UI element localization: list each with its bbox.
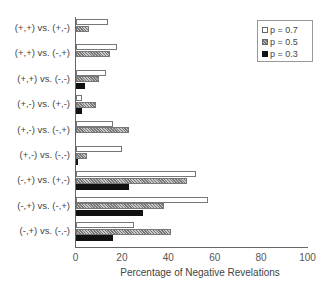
bar [76, 210, 143, 216]
bar [76, 178, 187, 184]
x-tick-label: 100 [299, 252, 316, 263]
category-label: (+,+) vs. (-,-) [0, 73, 70, 84]
bar [76, 108, 83, 114]
category-label: (+,+) vs. (-,+) [0, 47, 70, 58]
bar [76, 197, 208, 203]
legend-item-p05: p = 0.5 [262, 36, 308, 48]
category-label: (+,-) vs. (-,+) [0, 124, 70, 135]
category-label: (-,+) vs. (+,-) [0, 174, 70, 185]
black-swatch-icon [262, 51, 268, 57]
horizontal-bar-chart: (+,+) vs. (+,-)(+,+) vs. (-,+)(+,+) vs. … [0, 0, 330, 290]
bar [76, 229, 171, 235]
x-tick-label: 80 [256, 252, 267, 263]
bar [76, 184, 129, 190]
x-axis-label: Percentage of Negative Revelations [100, 267, 300, 278]
bar [76, 146, 122, 152]
hatched-swatch-icon [262, 39, 268, 45]
bar [76, 83, 85, 89]
bar [76, 171, 197, 177]
bar [76, 235, 113, 241]
legend-item-p03: p = 0.3 [262, 48, 308, 60]
bar [76, 159, 78, 165]
bar [76, 102, 97, 108]
category-label: (+,-) vs. (-,-) [0, 149, 70, 160]
category-label: (-,+) vs. (-,+) [0, 200, 70, 211]
category-label: (+,+) vs. (+,-) [0, 22, 70, 33]
bar [76, 70, 106, 76]
x-tick-label: 40 [163, 252, 174, 263]
category-label: (-,+) vs. (-,-) [0, 225, 70, 236]
legend-item-p07: p = 0.7 [262, 24, 308, 36]
bar [76, 203, 164, 209]
x-tick-label: 60 [209, 252, 220, 263]
bar [76, 76, 99, 82]
category-label: (+,-) vs. (+,-) [0, 98, 70, 109]
bar [76, 222, 134, 228]
bar [76, 95, 83, 101]
white-swatch-icon [262, 27, 268, 33]
bar [76, 153, 88, 159]
bar [76, 121, 113, 127]
legend: p = 0.7 p = 0.5 p = 0.3 [257, 20, 313, 62]
bar [76, 51, 111, 57]
bar [76, 26, 90, 32]
bar [76, 44, 118, 50]
bar [76, 19, 108, 25]
x-axis [75, 247, 308, 248]
bar [76, 127, 129, 133]
x-tick-label: 20 [116, 252, 127, 263]
x-tick-label: 0 [73, 252, 79, 263]
